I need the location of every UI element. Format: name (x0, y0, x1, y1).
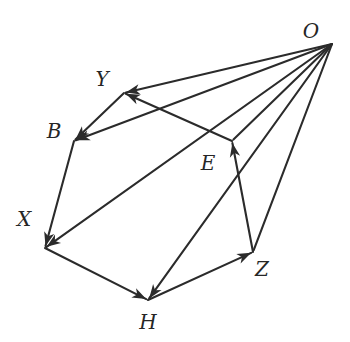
edge-O-H (149, 44, 332, 298)
edge-O-E (233, 44, 332, 140)
node-label-o: O (303, 21, 319, 41)
edge-Y-B (75, 93, 124, 140)
edge-H-Z (148, 253, 251, 300)
node-label-x: X (17, 209, 31, 229)
node-label-b: B (47, 121, 62, 141)
edges-group (44, 44, 332, 300)
graph-diagram-figure: OYBEXZH (0, 0, 350, 342)
node-label-h: H (139, 312, 156, 332)
node-label-z: Z (255, 259, 269, 279)
edge-X-H (45, 248, 146, 299)
edge-O-Z (254, 44, 332, 250)
edge-O-X (47, 44, 332, 247)
node-label-y: Y (95, 69, 108, 89)
edge-O-B (76, 44, 332, 140)
node-label-e: E (201, 153, 216, 173)
graph-canvas (0, 0, 350, 342)
